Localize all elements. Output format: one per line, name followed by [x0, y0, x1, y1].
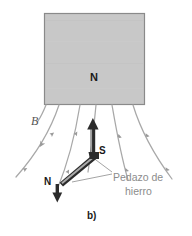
needle-north-label: N	[44, 177, 51, 187]
needle-south-label: S	[99, 146, 106, 156]
field-arrow-2	[23, 168, 28, 172]
magnetism-figure-panel-b: N B S N Pedazo de hierro b)	[0, 0, 192, 236]
magnet-block	[45, 14, 145, 105]
needle-south-arm	[87, 118, 98, 156]
field-arrow-9	[166, 167, 170, 171]
needle-north-arrowhead	[52, 193, 62, 203]
field-arrow-4	[66, 169, 70, 174]
needle-south-arrowhead	[87, 118, 98, 130]
field-arrow-8	[146, 133, 150, 137]
field-line-6	[38, 105, 46, 121]
needle-south-highlight	[91, 126, 92, 155]
magnet-pole-label-n: N	[90, 72, 98, 83]
figure-svg-canvas	[0, 0, 192, 236]
callout-text-line-1: Pedazo de	[113, 172, 163, 183]
field-label-b: B	[31, 115, 38, 127]
field-arrow-1	[50, 133, 55, 137]
panel-label: b)	[87, 211, 96, 221]
magnet-body-rect	[45, 14, 145, 105]
needle-north-arm	[52, 153, 98, 203]
callout-text-line-2: hierro	[125, 186, 152, 197]
leader-line-to-needle	[72, 174, 112, 182]
needle-pivot	[89, 152, 100, 159]
